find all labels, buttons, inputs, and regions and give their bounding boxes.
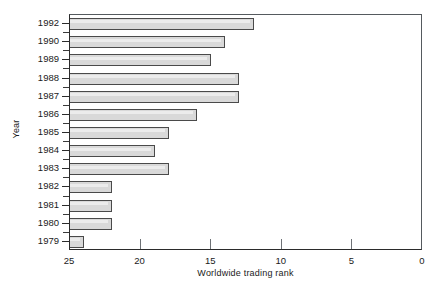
y-tick-minor	[63, 32, 69, 33]
y-tick	[62, 59, 69, 60]
x-tick-label-10: 10	[266, 255, 296, 266]
y-tick	[62, 114, 69, 115]
y-tick-minor	[63, 105, 69, 106]
y-tick-label-1980: 1980	[27, 217, 59, 228]
bar-highlight	[70, 20, 250, 23]
bar-1987	[70, 91, 239, 103]
plot-area	[69, 14, 422, 250]
bar-highlight	[70, 148, 151, 151]
x-tick-label-0: 0	[407, 255, 437, 266]
y-tick-label-1990: 1990	[27, 35, 59, 46]
bar-highlight	[70, 129, 165, 132]
y-axis-title: Year	[11, 105, 21, 153]
bar-1992	[70, 18, 254, 30]
y-tick-minor	[63, 196, 69, 197]
y-tick-label-1982: 1982	[27, 180, 59, 191]
y-tick-label-1989: 1989	[27, 53, 59, 64]
y-tick-label-1987: 1987	[27, 90, 59, 101]
y-tick-minor	[63, 68, 69, 69]
y-tick-minor	[63, 177, 69, 178]
y-tick	[62, 23, 69, 24]
bar-1981	[70, 200, 112, 212]
x-tick-label-20: 20	[125, 255, 155, 266]
x-tick-label-25: 25	[54, 255, 84, 266]
y-tick	[62, 241, 69, 242]
bar-highlight	[70, 220, 108, 223]
x-axis-title: Worldwide trading rank	[69, 268, 422, 278]
bar-highlight	[70, 93, 235, 96]
y-tick-label-1983: 1983	[27, 162, 59, 173]
y-tick-minor	[63, 232, 69, 233]
x-tick-15	[210, 239, 211, 249]
y-tick	[62, 223, 69, 224]
y-tick-label-1984: 1984	[27, 144, 59, 155]
bar-1990	[70, 36, 225, 48]
y-tick-minor	[63, 123, 69, 124]
bar-highlight	[70, 202, 108, 205]
y-tick-label-1986: 1986	[27, 108, 59, 119]
bar-1985	[70, 127, 169, 139]
bar-1982	[70, 181, 112, 193]
y-tick-minor	[63, 50, 69, 51]
y-tick	[62, 168, 69, 169]
bar-highlight	[70, 238, 80, 241]
bar-highlight	[70, 75, 235, 78]
y-tick	[62, 132, 69, 133]
y-tick	[62, 205, 69, 206]
bar-highlight	[70, 57, 207, 60]
bar-1983	[70, 163, 169, 175]
bar-1986	[70, 109, 197, 121]
x-tick-label-15: 15	[195, 255, 225, 266]
y-tick	[62, 78, 69, 79]
bar-1980	[70, 218, 112, 230]
bar-highlight	[70, 166, 165, 169]
y-tick	[62, 186, 69, 187]
y-tick-label-1979: 1979	[27, 235, 59, 246]
bar-1984	[70, 145, 155, 157]
y-tick-minor	[63, 159, 69, 160]
y-tick	[62, 150, 69, 151]
y-tick	[62, 41, 69, 42]
bar-1989	[70, 54, 211, 66]
bar-1979	[70, 236, 84, 248]
y-tick-minor	[63, 141, 69, 142]
bar-highlight	[70, 184, 108, 187]
y-tick-label-1988: 1988	[27, 72, 59, 83]
y-tick-label-1981: 1981	[27, 199, 59, 210]
bar-highlight	[70, 39, 221, 42]
x-tick-20	[140, 239, 141, 249]
x-tick-label-5: 5	[336, 255, 366, 266]
chart-figure: Year 19921990198919881987198619851984198…	[0, 0, 448, 296]
bar-1988	[70, 73, 239, 85]
x-tick-10	[281, 239, 282, 249]
bar-highlight	[70, 111, 193, 114]
y-tick-minor	[63, 214, 69, 215]
y-tick-label-1985: 1985	[27, 126, 59, 137]
y-tick	[62, 96, 69, 97]
x-tick-5	[351, 239, 352, 249]
y-tick-minor	[63, 87, 69, 88]
y-tick-label-1992: 1992	[27, 17, 59, 28]
